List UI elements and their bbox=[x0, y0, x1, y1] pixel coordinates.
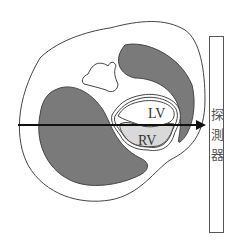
detector-char: 器 bbox=[209, 145, 225, 165]
lv-label: LV bbox=[148, 106, 165, 121]
diagram-canvas: LV RV 探 測 器 bbox=[0, 0, 238, 248]
detector-label: 探 測 器 bbox=[209, 105, 225, 165]
detector-char: 探 bbox=[209, 105, 225, 125]
chest-cross-section: LV RV bbox=[0, 0, 238, 248]
rv-label: RV bbox=[138, 133, 156, 148]
detector-char: 測 bbox=[209, 125, 225, 145]
